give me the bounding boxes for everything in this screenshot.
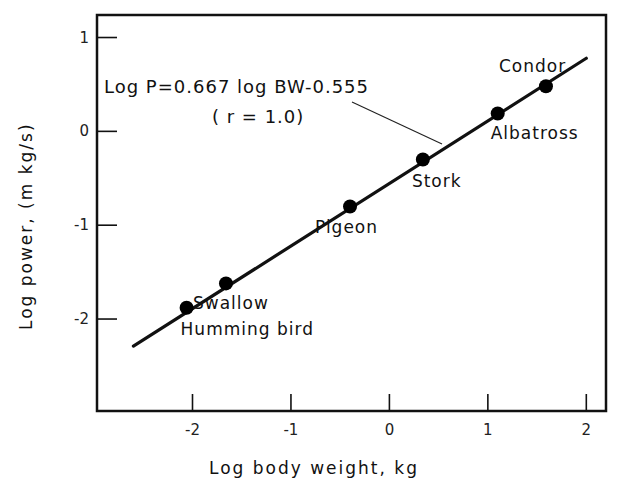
point-labels: Humming birdSwallowPigeonStorkAlbatrossC…: [181, 56, 579, 338]
point-label: Albatross: [491, 123, 579, 143]
x-tick-label: -2: [185, 421, 200, 439]
y-tick-label: 1: [79, 29, 89, 47]
point-label: Swallow: [193, 293, 269, 313]
y-tick-label: 0: [79, 122, 89, 140]
y-tick-label: -2: [74, 310, 89, 328]
x-axis-ticks: -2-1012: [185, 394, 591, 439]
data-point: [219, 276, 233, 290]
x-tick-label: 1: [483, 421, 493, 439]
data-point: [539, 79, 553, 93]
chart: -2-1012 10-1-2 Humming birdSwallowPigeon…: [0, 0, 630, 498]
equation-leader-line: [352, 102, 442, 144]
point-label: Stork: [412, 171, 462, 191]
correlation-label: ( r = 1.0): [212, 106, 304, 127]
y-tick-label: -1: [74, 216, 89, 234]
y-axis-ticks: 10-1-2: [74, 29, 117, 329]
data-point: [180, 301, 194, 315]
point-label: Condor: [499, 56, 566, 76]
point-label: Pigeon: [315, 217, 378, 237]
equation-label: Log P=0.667 log BW-0.555: [104, 76, 369, 97]
x-tick-label: 0: [385, 421, 395, 439]
x-axis-title: Log body weight, kg: [209, 458, 419, 478]
data-point: [416, 153, 430, 167]
x-tick-label: -1: [283, 421, 298, 439]
y-axis-title: Log power, (m kg/s): [16, 122, 36, 330]
data-point: [491, 107, 505, 121]
point-label: Humming bird: [181, 319, 314, 339]
leader-line: [352, 102, 442, 144]
data-point: [343, 199, 357, 213]
x-tick-label: 2: [582, 421, 592, 439]
